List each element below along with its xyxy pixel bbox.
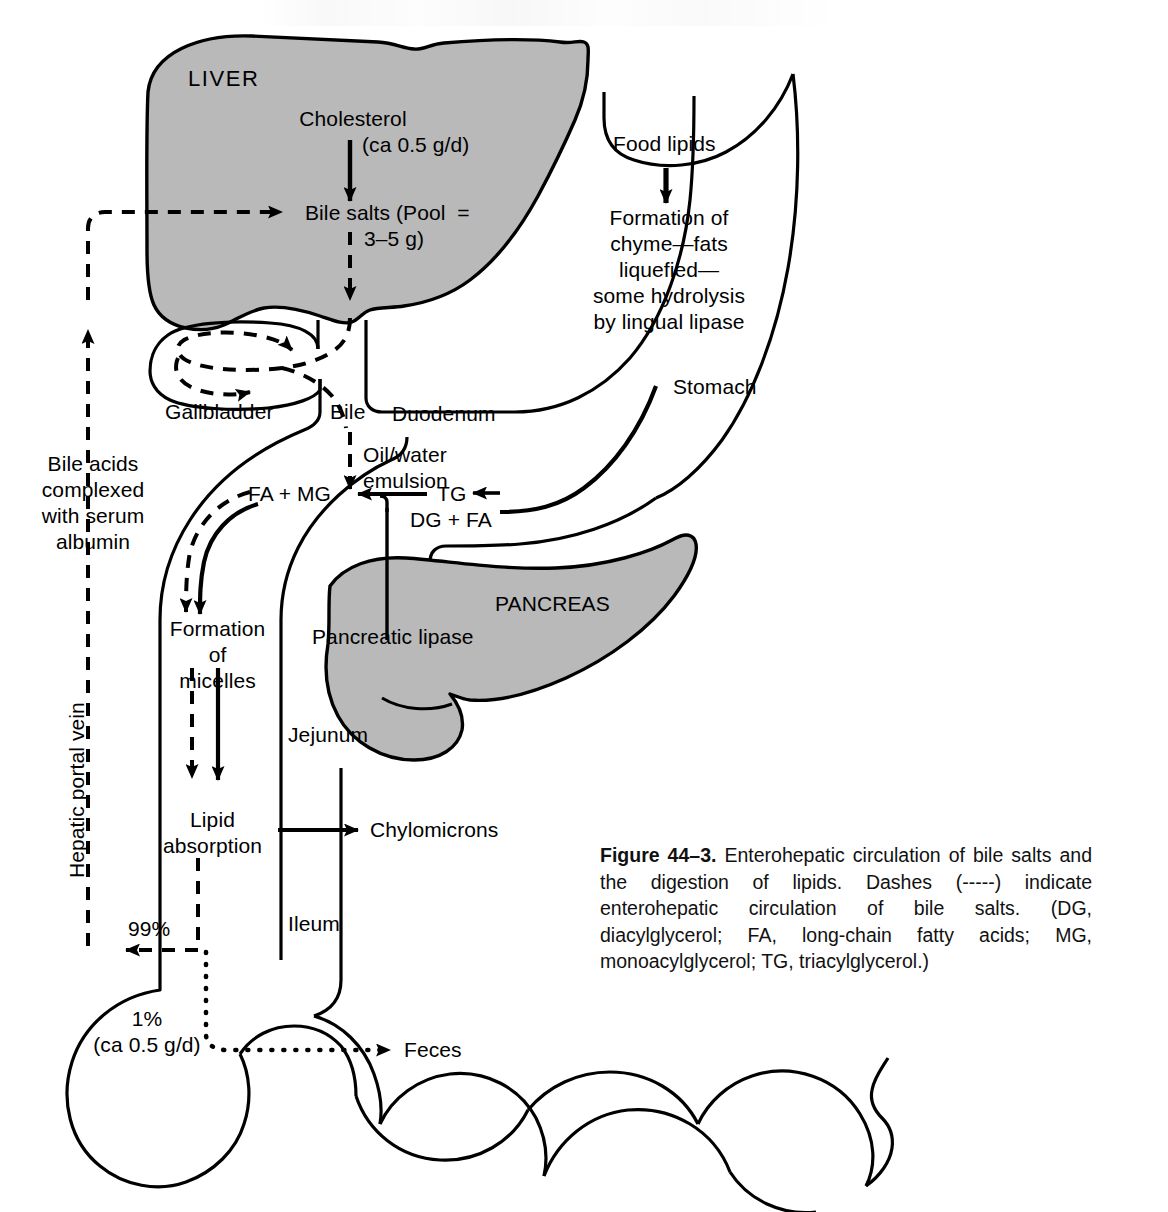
arrow-fa-mg-to-micelles: [200, 504, 258, 614]
bile-acids-label-line1: Bile acids: [28, 452, 158, 477]
bile-label: Bile: [330, 400, 365, 425]
liver-label: LIVER: [188, 66, 260, 92]
bile-acids-label-line2: complexed: [28, 478, 158, 503]
chyme-label-line5: by lingual lipase: [574, 310, 764, 335]
percent-1-rate-label: (ca 0.5 g/d): [72, 1033, 222, 1058]
lipid-absorption-label-line1: Lipid: [130, 808, 295, 833]
bile-salts-label-line1: Bile salts (Pool =: [305, 201, 470, 226]
hepatic-portal-vein-label: Hepatic portal vein: [65, 702, 90, 878]
lipid-absorption-label-line2: absorption: [130, 834, 295, 859]
micelles-label-line2: of: [140, 643, 295, 668]
figure-root: LIVER Cholesterol (ca 0.5 g/d) Bile salt…: [0, 0, 1168, 1212]
figure-caption: Figure 44–3. Enterohepatic circulation o…: [600, 842, 1092, 975]
pancreas-label: PANCREAS: [495, 592, 610, 617]
dotted-feces-path: [206, 952, 390, 1050]
food-lipids-label: Food lipids: [613, 132, 716, 157]
jejunum-label: Jejunum: [288, 723, 368, 748]
dashed-out-of-gallbladder-loop: [176, 358, 250, 394]
chyme-label-line4: some hydrolysis: [574, 284, 764, 309]
chylomicrons-label: Chylomicrons: [370, 818, 498, 843]
pancreatic-lipase-duct-elbow: [380, 496, 387, 512]
duodenum-label: Duodenum: [392, 402, 496, 427]
micelles-label-line1: Formation: [140, 617, 295, 642]
bile-acids-label-line3: with serum: [28, 504, 158, 529]
percent-1-label: 1%: [92, 1007, 202, 1032]
gallbladder-label: Gallbladder: [165, 400, 274, 425]
cholesterol-label: Cholesterol: [283, 107, 423, 132]
chyme-label-line2: chyme—fats: [574, 232, 764, 257]
chyme-label-line1: Formation of: [574, 206, 764, 231]
percent-99-label: 99%: [128, 917, 170, 942]
chyme-label-line3: liquefied—: [574, 258, 764, 283]
ileum-label: Ileum: [288, 912, 340, 937]
bile-salts-label-line2: 3–5 g): [364, 227, 424, 252]
stomach-label: Stomach: [673, 375, 757, 400]
figure-number: Figure 44–3.: [600, 844, 716, 866]
cholesterol-rate-label: (ca 0.5 g/d): [362, 133, 469, 158]
oil-water-label-line1: Oil/water: [363, 443, 447, 468]
feces-label: Feces: [404, 1038, 462, 1063]
fa-mg-label: FA + MG: [248, 482, 331, 507]
dg-fa-label: DG + FA: [410, 508, 492, 533]
dashed-into-gallbladder-loop: [178, 333, 292, 370]
micelles-label-line3: micelles: [140, 669, 295, 694]
oil-water-label-line2: emulsion: [363, 469, 448, 494]
bile-acids-label-line4: albumin: [28, 530, 158, 555]
tg-label: TG: [437, 482, 466, 507]
pancreatic-lipase-label: Pancreatic lipase: [312, 625, 474, 650]
